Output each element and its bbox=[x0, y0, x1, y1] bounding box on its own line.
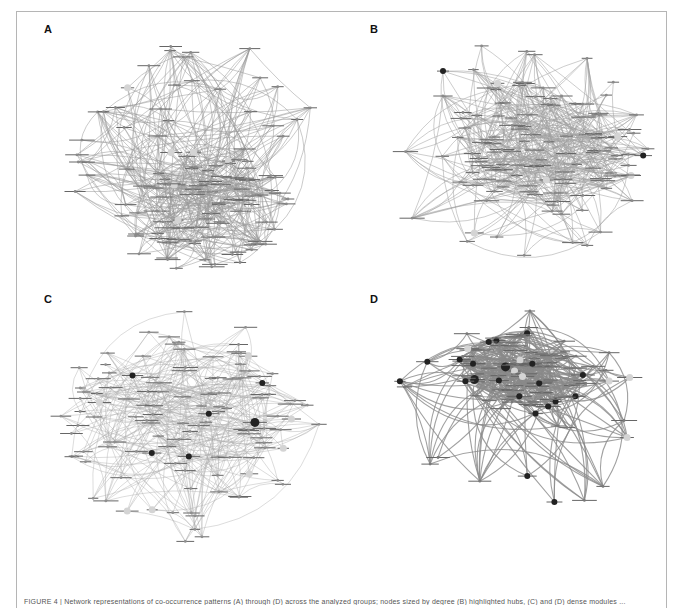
network-node bbox=[268, 384, 271, 387]
network-node bbox=[595, 137, 598, 140]
network-node bbox=[229, 456, 232, 459]
network-node bbox=[614, 158, 617, 161]
network-panel-b: B bbox=[346, 13, 666, 283]
hub-node bbox=[462, 378, 468, 384]
network-node bbox=[206, 218, 209, 221]
network-node bbox=[514, 349, 517, 352]
network-node bbox=[598, 114, 601, 117]
network-node bbox=[194, 515, 197, 518]
network-node bbox=[581, 194, 584, 197]
panel-label-b: B bbox=[370, 23, 378, 35]
network-node bbox=[206, 183, 209, 186]
network-node bbox=[175, 267, 178, 270]
network-node bbox=[582, 116, 585, 119]
network-node bbox=[548, 140, 551, 143]
network-node bbox=[82, 391, 85, 394]
network-node bbox=[171, 181, 178, 188]
hub-node bbox=[470, 375, 479, 384]
network-node bbox=[466, 332, 469, 335]
network-node bbox=[306, 404, 309, 407]
network-node bbox=[478, 480, 481, 483]
network-node bbox=[239, 210, 242, 213]
network-node bbox=[492, 337, 495, 340]
network-node bbox=[123, 126, 126, 129]
network-node bbox=[214, 263, 217, 266]
network-node bbox=[475, 114, 478, 117]
network-node bbox=[475, 373, 478, 376]
network-node bbox=[104, 363, 107, 366]
network-node bbox=[239, 261, 242, 264]
network-node bbox=[200, 405, 203, 408]
hub-node bbox=[259, 380, 265, 386]
network-node bbox=[204, 258, 207, 261]
network-node bbox=[152, 187, 155, 190]
network-node bbox=[468, 377, 471, 380]
network-node bbox=[158, 237, 161, 240]
network-node bbox=[626, 174, 629, 177]
network-node bbox=[229, 162, 232, 165]
network-node bbox=[482, 349, 485, 352]
network-node bbox=[263, 427, 266, 430]
hub-node bbox=[424, 359, 430, 365]
network-node bbox=[534, 193, 537, 196]
network-node bbox=[209, 377, 212, 380]
network-node bbox=[246, 470, 253, 477]
network-node bbox=[216, 376, 219, 379]
network-node bbox=[159, 108, 162, 111]
network-node bbox=[138, 252, 141, 255]
hub-node bbox=[250, 418, 259, 427]
network-node bbox=[166, 445, 169, 448]
network-node bbox=[171, 511, 174, 514]
network-node bbox=[190, 512, 193, 515]
network-node bbox=[192, 188, 195, 191]
network-node bbox=[495, 236, 498, 239]
network-node bbox=[168, 149, 175, 156]
network-node bbox=[97, 377, 100, 380]
network-node bbox=[151, 413, 154, 416]
network-node bbox=[249, 110, 252, 113]
network-node bbox=[502, 186, 505, 189]
network-node bbox=[571, 241, 574, 244]
network-node bbox=[212, 236, 215, 239]
network-node bbox=[585, 382, 588, 385]
network-node bbox=[153, 404, 156, 407]
network-node bbox=[248, 432, 251, 435]
network-node bbox=[274, 176, 277, 179]
network-node bbox=[623, 419, 626, 422]
network-node bbox=[243, 199, 246, 202]
network-node bbox=[530, 403, 533, 406]
network-node bbox=[207, 169, 210, 172]
network-node bbox=[592, 167, 595, 170]
network-graph-b bbox=[346, 13, 666, 283]
network-node bbox=[578, 379, 581, 382]
network-node bbox=[237, 251, 240, 254]
network-node bbox=[148, 64, 151, 67]
network-node bbox=[209, 180, 212, 183]
network-node bbox=[461, 374, 464, 377]
network-node bbox=[120, 215, 123, 218]
network-node bbox=[183, 310, 186, 313]
network-node bbox=[495, 88, 498, 91]
network-node bbox=[194, 166, 197, 169]
network-node bbox=[517, 164, 520, 167]
network-node bbox=[463, 127, 466, 130]
network-node bbox=[194, 528, 197, 531]
network-node bbox=[76, 153, 79, 156]
network-node bbox=[166, 226, 169, 229]
network-node bbox=[150, 422, 153, 425]
network-node bbox=[499, 407, 502, 410]
network-node bbox=[225, 407, 228, 410]
network-node bbox=[318, 423, 321, 426]
hub-node bbox=[206, 411, 212, 417]
network-node bbox=[264, 446, 267, 449]
network-node bbox=[276, 479, 279, 482]
network-node bbox=[494, 80, 501, 87]
network-node bbox=[218, 491, 221, 494]
network-node bbox=[471, 171, 474, 174]
network-node bbox=[247, 429, 250, 432]
network-node bbox=[288, 416, 295, 423]
hub-node bbox=[536, 380, 542, 386]
panel-label-a: A bbox=[44, 23, 52, 35]
network-node bbox=[564, 350, 567, 353]
network-node bbox=[610, 172, 613, 175]
